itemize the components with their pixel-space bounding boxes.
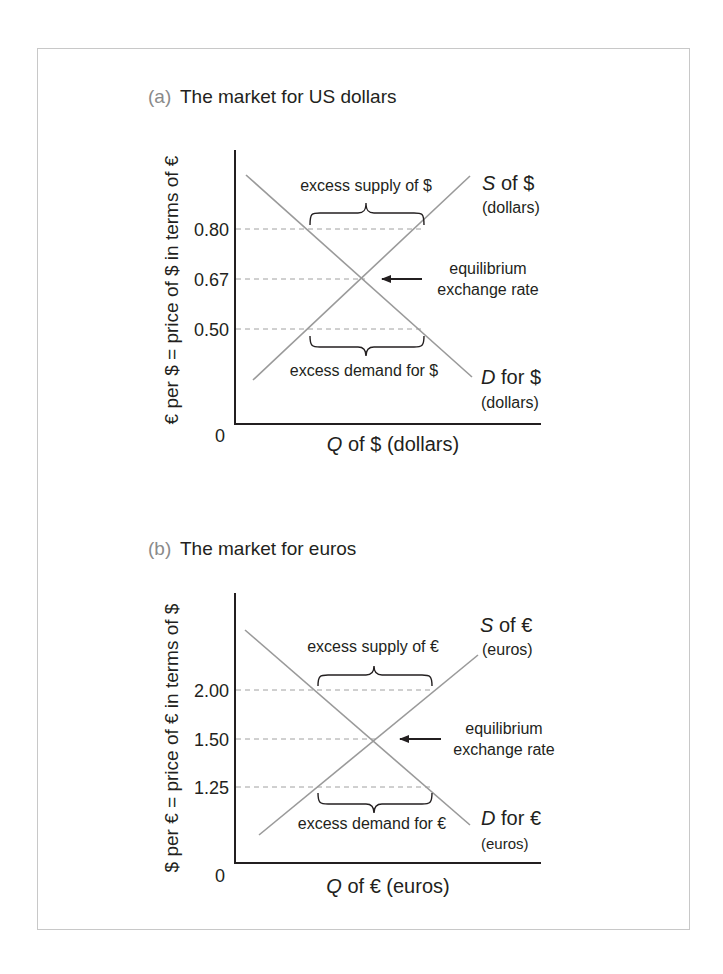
panel-a-supply-sublabel: (dollars) — [482, 199, 540, 216]
panel-b-tick-125: 1.25 — [194, 778, 229, 798]
panel-a-excess-supply-label: excess supply of $ — [300, 177, 432, 194]
panel-b-excess-demand-label: excess demand for € — [298, 815, 447, 832]
panel-a-tick-050: 0.50 — [194, 320, 229, 340]
panel-b-equilibrium-line1: equilibrium — [465, 720, 542, 737]
panel-b-excess-demand-brace — [318, 793, 432, 813]
panel-a-excess-demand-label: excess demand for $ — [290, 362, 439, 379]
panel-a-demand-label: D for $ — [481, 366, 541, 388]
panel-a-demand-sublabel: (dollars) — [481, 394, 539, 411]
panel-a-equilibrium-line1: equilibrium — [449, 260, 526, 277]
panel-b-title: The market for euros — [180, 538, 356, 559]
panel-a-equilibrium-line2: exchange rate — [437, 281, 539, 298]
panel-a-tick-067: 0.67 — [194, 270, 229, 290]
panel-b: (b) The market for euros $ per € = price… — [148, 538, 555, 897]
panel-a-tick-080: 0.80 — [194, 220, 229, 240]
panel-b-excess-supply-brace — [318, 666, 432, 686]
panel-b-equilibrium-line2: exchange rate — [453, 741, 555, 758]
panel-a-x-axis-label: Q of $ (dollars) — [327, 433, 459, 455]
panel-b-tick-150: 1.50 — [194, 730, 229, 750]
panel-a-y-axis-label: € per $ = price of $ in terms of € — [161, 155, 182, 424]
panel-b-excess-supply-label: excess supply of € — [307, 638, 439, 655]
panel-b-tick-200: 2.00 — [194, 681, 229, 701]
panel-b-demand-curve — [245, 630, 470, 825]
panel-b-x-axis-label: Q of € (euros) — [326, 875, 449, 897]
panel-b-supply-curve — [259, 655, 478, 835]
panel-b-demand-label: D for € — [481, 807, 541, 829]
panel-a: (a) The market for US dollars € per $ = … — [148, 86, 541, 455]
panel-a-excess-supply-brace — [310, 203, 424, 225]
panel-b-origin: 0 — [215, 866, 225, 886]
panel-b-demand-sublabel: (euros) — [481, 835, 529, 852]
panel-a-title: The market for US dollars — [180, 86, 396, 107]
panel-a-letter: (a) — [148, 86, 171, 107]
panel-a-excess-demand-brace — [310, 336, 424, 356]
panel-b-y-axis-label: $ per € = price of € in terms of $ — [161, 603, 182, 872]
figure-svg: (a) The market for US dollars € per $ = … — [0, 0, 723, 974]
panel-b-supply-sublabel: (euros) — [482, 641, 533, 658]
panel-b-supply-label: S of € — [480, 614, 532, 636]
panel-a-supply-label: S of $ — [482, 172, 534, 194]
panel-b-letter: (b) — [148, 538, 171, 559]
panel-a-origin: 0 — [215, 426, 225, 446]
panel-a-supply-curve — [253, 176, 470, 380]
